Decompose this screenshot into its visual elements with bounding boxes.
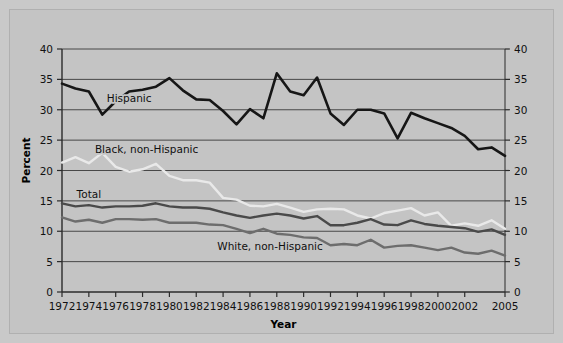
y-tick-label-left-40: 40 xyxy=(40,43,53,55)
chart-figure: 0510152025303540051015202530354019721974… xyxy=(0,0,563,343)
y-tick-label-right-0: 0 xyxy=(514,286,521,298)
x-tick-label-1976: 1976 xyxy=(102,300,129,312)
x-tick-label-1998: 1998 xyxy=(398,300,425,312)
y-tick-label-left-30: 30 xyxy=(40,104,53,116)
x-tick-label-1984: 1984 xyxy=(210,300,237,312)
series-label-white-non-hispanic: White, non-Hispanic xyxy=(217,240,323,252)
line-chart: 0510152025303540051015202530354019721974… xyxy=(0,0,563,343)
series-label-black-non-hispanic: Black, non-Hispanic xyxy=(95,143,199,155)
y-tick-label-left-5: 5 xyxy=(46,256,53,268)
y-tick-label-right-40: 40 xyxy=(514,43,527,55)
x-tick-label-1978: 1978 xyxy=(129,300,156,312)
x-tick-label-1988: 1988 xyxy=(263,300,290,312)
y-tick-label-right-15: 15 xyxy=(514,195,527,207)
series-label-total: Total xyxy=(76,188,102,200)
y-tick-label-left-20: 20 xyxy=(40,165,53,177)
series-line-black-non-hispanic xyxy=(62,153,505,229)
y-tick-label-left-10: 10 xyxy=(40,225,53,237)
series-label-hispanic: Hispanic xyxy=(107,92,152,104)
x-tick-label-2000: 2000 xyxy=(425,300,452,312)
x-tick-label-1992: 1992 xyxy=(317,300,344,312)
y-tick-label-left-0: 0 xyxy=(46,286,53,298)
x-tick-label-1980: 1980 xyxy=(156,300,183,312)
x-tick-label-1986: 1986 xyxy=(237,300,264,312)
y-tick-label-left-15: 15 xyxy=(40,195,53,207)
x-axis-title: Year xyxy=(269,318,297,330)
y-tick-label-right-25: 25 xyxy=(514,134,527,146)
y-tick-label-right-35: 35 xyxy=(514,73,527,85)
x-tick-label-1990: 1990 xyxy=(290,300,317,312)
y-tick-label-right-30: 30 xyxy=(514,104,527,116)
x-tick-label-2002: 2002 xyxy=(451,300,478,312)
y-tick-label-right-10: 10 xyxy=(514,225,527,237)
y-tick-label-left-25: 25 xyxy=(40,134,53,146)
y-tick-label-left-35: 35 xyxy=(40,73,53,85)
x-tick-label-1972: 1972 xyxy=(49,300,76,312)
x-tick-label-1994: 1994 xyxy=(344,300,371,312)
y-tick-label-right-20: 20 xyxy=(514,165,527,177)
y-axis-title: Percent xyxy=(20,138,32,184)
x-tick-label-1974: 1974 xyxy=(75,300,102,312)
x-tick-label-1996: 1996 xyxy=(371,300,398,312)
x-tick-label-1982: 1982 xyxy=(183,300,210,312)
y-tick-label-right-5: 5 xyxy=(514,256,521,268)
x-tick-label-2005: 2005 xyxy=(492,300,519,312)
